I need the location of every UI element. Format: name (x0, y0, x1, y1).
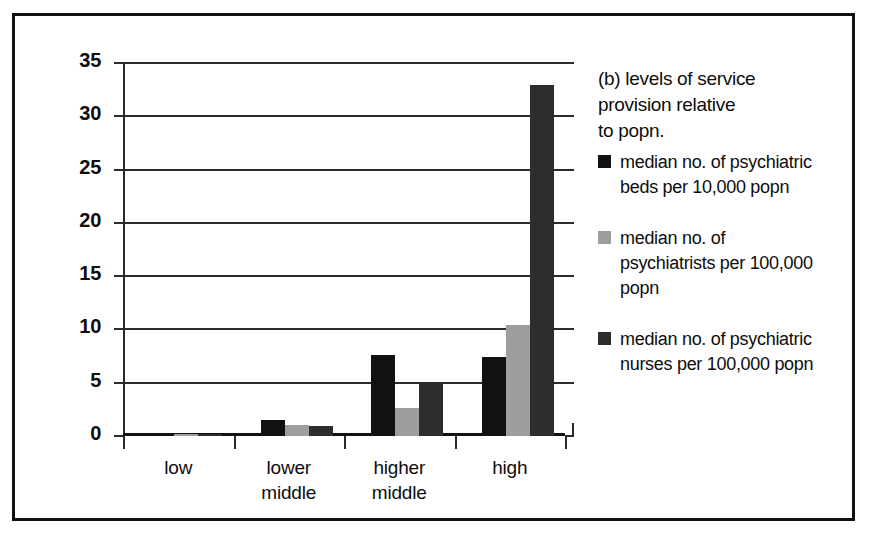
x-axis-category-line: low (123, 455, 234, 480)
y-tick-mark-right-35 (565, 62, 574, 64)
y-tick-mark-30 (114, 115, 123, 117)
y-axis-label-25: 25 (41, 156, 101, 179)
bar (261, 420, 285, 436)
y-tick-mark-right-15 (565, 275, 574, 277)
bar (150, 434, 174, 436)
x-tick-mark (234, 436, 236, 449)
legend-title: (b) levels of serviceprovision relativet… (598, 66, 838, 144)
legend-swatch-icon (598, 231, 611, 244)
bar-group (371, 63, 443, 436)
y-tick-mark-right-20 (565, 222, 574, 224)
plot-area: 05101520253035 lowlowermiddlehighermiddl… (123, 63, 565, 436)
bar (419, 382, 443, 436)
bar (506, 325, 530, 436)
bar (371, 355, 395, 436)
bar (482, 357, 506, 436)
x-tick-mark (344, 436, 346, 449)
x-axis-category-lower-middle: lowermiddle (234, 455, 345, 505)
x-axis-category-line: high (455, 455, 566, 480)
bar (198, 434, 222, 436)
x-axis-category-line: middle (234, 480, 345, 505)
legend-title-line: (b) levels of service (598, 66, 838, 92)
x-axis-category-higher-middle: highermiddle (344, 455, 455, 505)
legend-title-line: to popn. (598, 118, 838, 144)
legend-swatch-icon (598, 332, 611, 345)
y-tick-mark-right-25 (565, 169, 574, 171)
y-tick-mark-25 (114, 169, 123, 171)
y-axis-label-5: 5 (41, 369, 101, 392)
y-axis-line (123, 63, 125, 436)
legend-entry-label: median no. of psychiatricnurses per 100,… (620, 329, 813, 374)
x-tick-mark (455, 436, 457, 449)
x-tick-mark (123, 436, 125, 449)
bar (285, 425, 309, 436)
bar (530, 85, 554, 436)
bar (174, 434, 198, 436)
y-axis-label-30: 30 (41, 102, 101, 125)
legend-entries: median no. of psychiatricbeds per 10,000… (598, 150, 838, 377)
bar-group (482, 63, 554, 436)
legend-entry[interactable]: median no. of psychiatricbeds per 10,000… (598, 150, 838, 200)
x-axis-category-high: high (455, 455, 566, 480)
legend-entry[interactable]: median no. of psychiatricnurses per 100,… (598, 327, 838, 377)
x-tick-mark-end (565, 436, 567, 449)
legend-entry-label: median no. of psychiatricbeds per 10,000… (620, 152, 812, 197)
y-axis-label-20: 20 (41, 209, 101, 232)
legend-title-line: provision relative (598, 92, 838, 118)
y-axis-label-0: 0 (41, 422, 101, 445)
y-tick-mark-35 (114, 62, 123, 64)
y-tick-mark-10 (114, 328, 123, 330)
y-tick-mark-right-30 (565, 115, 574, 117)
y-tick-mark-15 (114, 275, 123, 277)
legend-entry[interactable]: median no. ofpsychiatrists per 100,000po… (598, 226, 838, 301)
x-axis-category-line: lower (234, 455, 345, 480)
bar (309, 426, 333, 436)
legend-entry-label: median no. ofpsychiatrists per 100,000po… (620, 228, 813, 298)
y-axis-label-15: 15 (41, 262, 101, 285)
y-tick-mark-5 (114, 382, 123, 384)
figure-frame: 05101520253035 lowlowermiddlehighermiddl… (12, 13, 855, 521)
y-tick-mark-right-10 (565, 328, 574, 330)
y-tick-mark-0 (114, 435, 123, 437)
y-axis-label-35: 35 (41, 49, 101, 72)
x-axis-category-low: low (123, 455, 234, 480)
y-axis-label-10: 10 (41, 315, 101, 338)
x-axis-category-line: higher (344, 455, 455, 480)
bar-group (261, 63, 333, 436)
bar (395, 408, 419, 436)
y-tick-mark-right-5 (565, 382, 574, 384)
legend-swatch-icon (598, 155, 611, 168)
bar-group (150, 63, 222, 436)
legend: (b) levels of serviceprovision relativet… (598, 66, 838, 403)
y-tick-mark-20 (114, 222, 123, 224)
x-axis-category-line: middle (344, 480, 455, 505)
